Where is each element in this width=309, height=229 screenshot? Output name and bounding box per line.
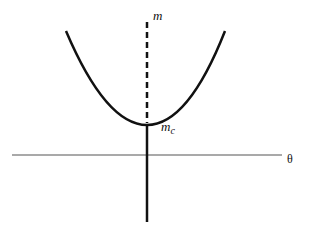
parabola-curve <box>66 31 225 125</box>
m-axis-label: m <box>153 9 162 22</box>
critical-point-label-subscript: c <box>170 125 174 136</box>
diagram-svg <box>0 0 309 229</box>
theta-axis-label: θ <box>287 153 293 165</box>
diagram-canvas: m mc θ <box>0 0 309 229</box>
critical-point-label-base: m <box>161 119 170 134</box>
critical-point-label: mc <box>161 120 175 136</box>
